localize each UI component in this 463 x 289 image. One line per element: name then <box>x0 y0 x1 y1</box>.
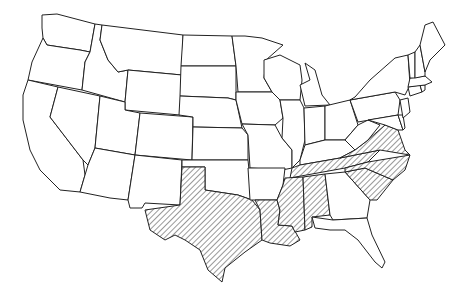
state-michigan[interactable] <box>300 63 330 106</box>
state-north-dakota[interactable] <box>181 35 236 66</box>
state-south-dakota[interactable] <box>180 66 236 100</box>
states-layer <box>23 14 445 282</box>
us-states-map <box>0 0 463 289</box>
state-new-york[interactable] <box>350 55 410 100</box>
state-colorado[interactable] <box>135 113 193 160</box>
state-wyoming[interactable] <box>125 70 182 115</box>
state-maine[interactable] <box>420 22 445 72</box>
state-indiana[interactable] <box>304 106 325 145</box>
state-iowa[interactable] <box>236 92 283 125</box>
state-florida[interactable] <box>312 217 385 268</box>
state-kansas[interactable] <box>192 127 248 160</box>
state-new-mexico[interactable] <box>128 155 182 208</box>
